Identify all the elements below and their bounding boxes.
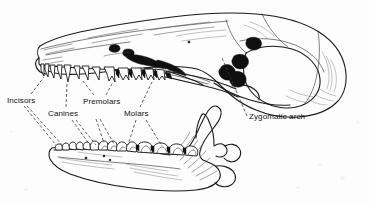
lower-incisor-5 [83, 142, 90, 150]
frontal-suture [226, 20, 246, 53]
mental-foramen-2 [103, 155, 105, 157]
leader-premolars-upper-b [106, 82, 113, 95]
mental-foramen-3 [109, 159, 111, 161]
upper-premolar-1 [74, 66, 80, 79]
upper-incisor-2 [45, 64, 49, 77]
leader-premolars-lower-a [96, 119, 104, 143]
lower-canine [90, 141, 99, 150]
leader-canines-upper [66, 82, 67, 107]
label-incisors: Incisors [7, 96, 35, 105]
basicranium-line [214, 83, 290, 105]
upper-molar-1 [118, 68, 129, 80]
lower-premolar-3 [116, 142, 127, 151]
leader-molars-lower-b [146, 120, 162, 146]
frontal-foramen-dot [188, 41, 190, 43]
label-molars: Molars [124, 109, 149, 118]
upper-molar-2 [131, 68, 142, 80]
label-premolars: Premolars [83, 97, 120, 106]
braincase-bulge [244, 46, 321, 108]
upper-canine [64, 65, 71, 82]
upper-molar-3 [144, 69, 154, 80]
lower-molar-3 [169, 144, 185, 155]
skull-illustration-svg: .ink { fill: none; stroke: #1a1a1a; stro… [0, 0, 369, 205]
lower-teeth-group [55, 141, 198, 156]
lower-incisor-1 [55, 144, 62, 150]
leader-molars-lower-a [128, 120, 136, 145]
upper-incisor-1 [41, 64, 44, 76]
lower-molar-2 [153, 143, 169, 154]
upper-premolar-2 [82, 66, 89, 80]
leader-molars-upper [140, 82, 152, 107]
foramen-dark-2 [232, 54, 249, 69]
foramen-dark-1 [246, 37, 262, 50]
lower-premolar-2 [107, 141, 117, 151]
lower-premolar-1 [98, 141, 108, 150]
lower-premolar-4 [126, 142, 137, 152]
skull-anatomy-figure: .ink { fill: none; stroke: #1a1a1a; stro… [0, 0, 369, 205]
mental-foramen-1 [85, 157, 87, 159]
upper-premolar-4 [104, 67, 115, 82]
foramen-dark-3 [229, 71, 246, 87]
leader-premolars-upper-a [82, 80, 94, 95]
lower-incisor-4 [76, 142, 83, 150]
lower-incisor-2 [62, 143, 69, 150]
lower-incisor-3 [69, 142, 76, 150]
label-zygomatic-arch: Zygomatic arch [249, 112, 305, 121]
leader-premolars-lower-b [100, 119, 114, 144]
leader-canines-lower-b [76, 120, 96, 145]
label-canines: Canines [48, 109, 78, 118]
occipital-shading [308, 52, 336, 105]
parietal-suture [262, 14, 288, 47]
mandible-inner-line [58, 157, 180, 169]
mandible-body-shading [60, 152, 182, 180]
leader-incisors-upper [31, 77, 44, 94]
infraorbital-foramen [109, 45, 120, 53]
upper-incisor-3 [50, 65, 55, 78]
upper-incisor-4 [57, 65, 62, 79]
leader-canines-lower-a [72, 120, 90, 145]
